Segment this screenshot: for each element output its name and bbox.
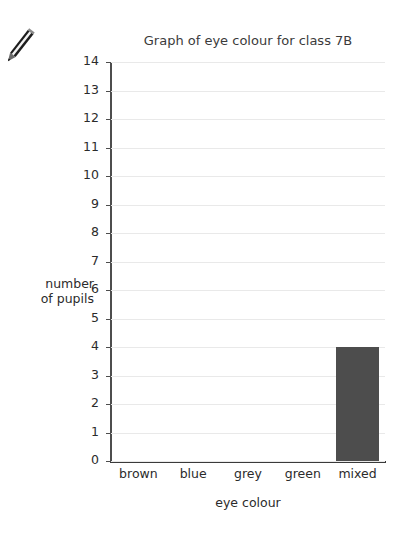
y-tick-label: 4 (59, 340, 99, 353)
y-tick-mark (106, 233, 111, 234)
y-tick-label: 1 (59, 426, 99, 439)
gridline (111, 290, 385, 291)
x-tick-label: brown (111, 466, 166, 481)
gridline (111, 319, 385, 320)
y-tick-mark (106, 404, 111, 405)
x-tick-label: blue (166, 466, 221, 481)
gridline (111, 233, 385, 234)
gridline (111, 91, 385, 92)
y-tick-mark (106, 376, 111, 377)
y-tick-mark (106, 91, 111, 92)
y-tick-label: 14 (59, 55, 99, 68)
gridline (111, 262, 385, 263)
y-tick-mark (106, 290, 111, 291)
y-tick-mark (106, 262, 111, 263)
gridline (111, 62, 385, 63)
x-tick-label: grey (221, 466, 276, 481)
y-tick-mark (106, 461, 111, 462)
y-tick-label: 12 (59, 112, 99, 125)
y-tick-mark (106, 119, 111, 120)
y-tick-mark (106, 176, 111, 177)
x-tick-label: mixed (330, 466, 385, 481)
x-axis-label: eye colour (111, 495, 385, 510)
y-tick-label: 10 (59, 169, 99, 182)
y-tick-label: 11 (59, 141, 99, 154)
chart-title: Graph of eye colour for class 7B (110, 33, 386, 48)
gridline (111, 205, 385, 206)
bar-chart: Graph of eye colour for class 7B number … (0, 0, 407, 537)
y-tick-mark (106, 62, 111, 63)
gridline (111, 176, 385, 177)
y-tick-mark (106, 347, 111, 348)
bar-mixed (336, 347, 379, 461)
y-tick-label: 5 (59, 312, 99, 325)
gridline (111, 148, 385, 149)
y-tick-mark (106, 148, 111, 149)
y-tick-mark (106, 433, 111, 434)
y-tick-mark (106, 319, 111, 320)
y-tick-label: 7 (59, 255, 99, 268)
y-tick-label: 8 (59, 226, 99, 239)
y-tick-label: 9 (59, 198, 99, 211)
gridline (111, 461, 385, 462)
y-tick-label: 2 (59, 397, 99, 410)
y-tick-mark (106, 205, 111, 206)
y-tick-label: 13 (59, 84, 99, 97)
y-tick-label: 0 (59, 454, 99, 467)
gridline (111, 119, 385, 120)
x-tick-label: green (275, 466, 330, 481)
y-tick-label: 3 (59, 369, 99, 382)
y-tick-label: 6 (59, 283, 99, 296)
